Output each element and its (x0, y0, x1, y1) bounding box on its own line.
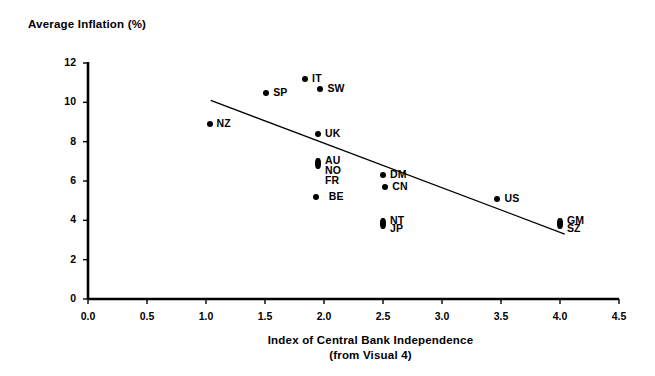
data-point-label-nz: NZ (217, 117, 231, 129)
data-point-label-uk: UK (325, 127, 340, 139)
x-tick-label: 4.0 (540, 310, 580, 322)
data-point-label-cn: CN (392, 180, 407, 192)
x-tick-label: 3.5 (481, 310, 521, 322)
y-tick-label: 8 (46, 135, 76, 147)
data-point-label-be: BE (329, 190, 344, 202)
x-tick-label: 4.5 (599, 310, 639, 322)
trend-line (211, 100, 565, 234)
data-point-marker (302, 76, 308, 82)
x-tick-label: 2.0 (304, 310, 344, 322)
y-tick-label: 10 (46, 95, 76, 107)
data-point-label-it: IT (312, 72, 322, 84)
scatter-chart-figure: Average Inflation (%) 024681012 0.00.51.… (0, 0, 655, 376)
y-tick-label: 0 (46, 292, 76, 304)
data-point-label-sw: SW (327, 82, 344, 94)
data-point-marker (207, 121, 213, 127)
regression-line (211, 100, 565, 234)
data-point-label-us: US (504, 192, 519, 204)
data-point-marker (263, 90, 269, 96)
data-point-marker (380, 218, 386, 229)
x-tick-label: 0.5 (127, 310, 167, 322)
data-point-label-fr: FR (325, 174, 339, 186)
x-tick-label: 1.5 (245, 310, 285, 322)
data-point-label-jp: JP (390, 222, 403, 234)
x-tick-label: 3.0 (422, 310, 462, 322)
y-tick-label: 6 (46, 174, 76, 186)
x-axis-title-line2: (from Visual 4) (0, 349, 655, 361)
data-point-marker (313, 194, 319, 200)
data-point-marker (315, 131, 321, 137)
x-tick-label: 2.5 (363, 310, 403, 322)
y-tick-label: 12 (46, 56, 76, 68)
data-point-label-dm: DM (390, 168, 407, 180)
x-tick-label: 1.0 (186, 310, 226, 322)
y-tick-label: 4 (46, 213, 76, 225)
x-tick-label: 0.0 (68, 310, 108, 322)
y-tick-label: 2 (46, 253, 76, 265)
axes-group (88, 62, 619, 299)
x-axis-title-line1: Index of Central Bank Independence (0, 334, 655, 346)
data-point-label-sp: SP (273, 86, 287, 98)
data-point-marker (557, 218, 563, 229)
data-point-label-sz: SZ (567, 222, 581, 234)
